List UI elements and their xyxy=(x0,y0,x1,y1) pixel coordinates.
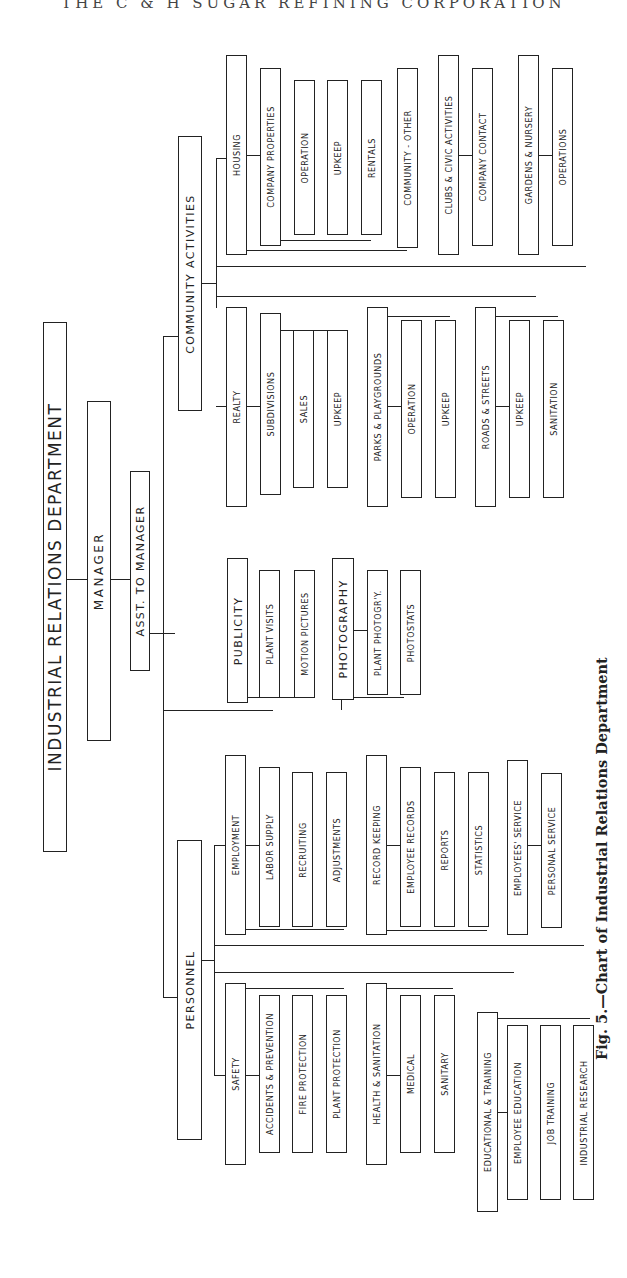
medical-label: MEDICAL xyxy=(406,1054,415,1094)
gardens-operations-box: OPERATIONS xyxy=(552,68,573,246)
plant-visits-box: PLANT VISITS xyxy=(259,570,280,698)
educational-training-box: EDUCATIONAL & TRAINING xyxy=(477,1012,498,1212)
record-keeping-box: RECORD KEEPING xyxy=(366,755,387,935)
health-sanitation-label: HEALTH & SANITATION xyxy=(372,1023,381,1124)
employee-records-box: EMPLOYEE RECORDS xyxy=(400,767,421,927)
housing-box: HOUSING xyxy=(226,55,247,255)
roads-upkeep-box: UPKEEP xyxy=(509,320,530,498)
realty-upkeep-label: UPKEEP xyxy=(333,392,342,426)
fire-protection-label: FIRE PROTECTION xyxy=(298,1034,307,1115)
gardens-nursery-label: GARDENS & NURSERY xyxy=(524,106,533,205)
labor-supply-label: LABOR SUPPLY xyxy=(265,814,274,880)
motion-pictures-box: MOTION PICTURES xyxy=(294,570,315,698)
reports-box: REPORTS xyxy=(434,772,455,927)
department-title: INDUSTRIAL RELATIONS DEPARTMENT xyxy=(45,403,65,772)
department-title-box: INDUSTRIAL RELATIONS DEPARTMENT xyxy=(43,322,67,852)
statistics-box: STATISTICS xyxy=(468,772,489,927)
personnel-label: PERSONNEL xyxy=(183,950,196,1029)
parks-upkeep-label: UPKEEP xyxy=(441,392,450,426)
photostats-label: PHOTOSTATS xyxy=(406,603,415,661)
industrial-research-box: INDUSTRIAL RESEARCH xyxy=(573,1025,594,1200)
page-header: THE C & H SUGAR REFINING CORPORATION xyxy=(0,0,627,12)
community-activities-box: COMMUNITY ACTIVITIES xyxy=(178,136,202,411)
adjustments-label: ADJUSTMENTS xyxy=(332,817,341,881)
roads-sanitation-box: SANITATION xyxy=(543,320,564,498)
realty-label: REALTY xyxy=(232,391,241,424)
statistics-label: STATISTICS xyxy=(474,824,483,874)
employee-education-box: EMPLOYEE EDUCATION xyxy=(507,1025,528,1200)
realty-box: REALTY xyxy=(226,307,247,507)
company-contact-label: COMPANY CONTACT xyxy=(478,113,487,202)
record-keeping-label: RECORD KEEPING xyxy=(372,805,381,885)
industrial-research-label: INDUSTRIAL RESEARCH xyxy=(579,1060,588,1165)
housing-operation-box: OPERATION xyxy=(294,80,315,235)
employees-service-label: EMPLOYEES' SERVICE xyxy=(513,799,522,895)
sales-box: SALES xyxy=(293,330,314,488)
manager-box: MANAGER xyxy=(87,401,111,741)
gardens-operations-label: OPERATIONS xyxy=(558,129,567,186)
company-properties-box: COMPANY PROPERTIES xyxy=(260,68,281,246)
clubs-civic-label: CLUBS & CIVIC ACTIVITIES xyxy=(444,96,453,215)
personnel-box: PERSONNEL xyxy=(177,840,202,1140)
health-sanitation-box: HEALTH & SANITATION xyxy=(366,983,387,1165)
educational-training-label: EDUCATIONAL & TRAINING xyxy=(483,1052,492,1172)
community-other-box: COMMUNITY - OTHER xyxy=(397,68,418,248)
photography-label: PHOTOGRAPHY xyxy=(337,579,350,678)
parks-playgrounds-box: PARKS & PLAYGROUNDS xyxy=(367,307,388,507)
parks-upkeep-box: UPKEEP xyxy=(435,320,456,498)
safety-label: SAFETY xyxy=(231,1057,240,1091)
parks-playgrounds-label: PARKS & PLAYGROUNDS xyxy=(373,353,382,462)
plant-protection-box: PLANT PROTECTION xyxy=(326,995,347,1153)
realty-upkeep-box: UPKEEP xyxy=(327,330,348,488)
employee-records-label: EMPLOYEE RECORDS xyxy=(406,800,415,893)
plant-photography-box: PLANT PHOTOGR'Y. xyxy=(367,570,388,695)
housing-upkeep-box: UPKEEP xyxy=(327,80,348,235)
assistant-label: ASST. TO MANAGER xyxy=(134,506,147,637)
plant-photography-label: PLANT PHOTOGR'Y. xyxy=(373,589,382,675)
employment-label: EMPLOYMENT xyxy=(231,815,240,876)
recruiting-box: RECRUITING xyxy=(292,772,313,927)
photography-box: PHOTOGRAPHY xyxy=(332,558,354,700)
rentals-label: RENTALS xyxy=(367,137,376,177)
labor-supply-box: LABOR SUPPLY xyxy=(259,767,280,927)
gardens-nursery-box: GARDENS & NURSERY xyxy=(518,55,539,255)
sales-label: SALES xyxy=(299,395,308,423)
manager-label: MANAGER xyxy=(92,532,106,610)
plant-protection-label: PLANT PROTECTION xyxy=(332,1029,341,1119)
publicity-label: PUBLICITY xyxy=(231,596,244,665)
adjustments-box: ADJUSTMENTS xyxy=(326,772,347,927)
reports-label: REPORTS xyxy=(440,829,449,870)
clubs-civic-box: CLUBS & CIVIC ACTIVITIES xyxy=(438,55,459,255)
parks-operation-box: OPERATION xyxy=(401,320,422,498)
accidents-prevention-box: ACCIDENTS & PREVENTION xyxy=(259,995,280,1153)
roads-streets-label: ROADS & STREETS xyxy=(481,365,490,449)
subdivisions-box: SUBDIVISIONS xyxy=(260,313,281,495)
assistant-box: ASST. TO MANAGER xyxy=(130,471,150,671)
publicity-box: PUBLICITY xyxy=(227,558,248,703)
accidents-prevention-label: ACCIDENTS & PREVENTION xyxy=(265,1013,274,1135)
medical-box: MEDICAL xyxy=(400,995,421,1153)
subdivisions-label: SUBDIVISIONS xyxy=(266,372,275,437)
employees-service-box: EMPLOYEES' SERVICE xyxy=(507,760,528,935)
company-contact-box: COMPANY CONTACT xyxy=(472,68,493,246)
sanitary-label: SANITARY xyxy=(440,1052,449,1096)
sanitary-box: SANITARY xyxy=(434,995,455,1153)
employee-education-label: EMPLOYEE EDUCATION xyxy=(513,1061,522,1163)
roads-streets-box: ROADS & STREETS xyxy=(475,307,496,507)
roads-upkeep-label: UPKEEP xyxy=(515,392,524,426)
recruiting-label: RECRUITING xyxy=(298,822,307,877)
employment-box: EMPLOYMENT xyxy=(225,755,246,935)
job-training-box: JOB TRAINING xyxy=(540,1025,561,1200)
housing-upkeep-label: UPKEEP xyxy=(333,140,342,174)
personal-service-label: PERSONAL SERVICE xyxy=(547,806,556,895)
figure-caption: Fig. 5.—Chart of Industrial Relations De… xyxy=(593,657,610,1060)
housing-label: HOUSING xyxy=(232,134,241,176)
personal-service-box: PERSONAL SERVICE xyxy=(541,773,562,928)
plant-visits-label: PLANT VISITS xyxy=(265,604,274,665)
motion-pictures-label: MOTION PICTURES xyxy=(300,592,309,675)
fire-protection-box: FIRE PROTECTION xyxy=(292,995,313,1153)
rentals-box: RENTALS xyxy=(361,80,382,235)
community-activities-label: COMMUNITY ACTIVITIES xyxy=(184,194,197,353)
job-training-label: JOB TRAINING xyxy=(546,1081,555,1143)
company-properties-label: COMPANY PROPERTIES xyxy=(266,106,275,208)
